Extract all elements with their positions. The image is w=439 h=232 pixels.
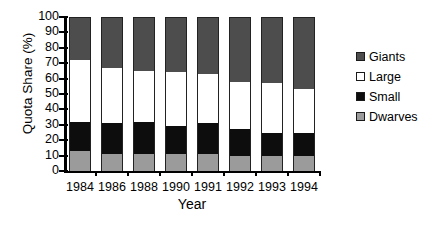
bar-segment-large <box>165 72 187 126</box>
bar-stack <box>261 17 283 171</box>
y-tick-mark <box>59 62 68 64</box>
y-tick-label: 80 <box>25 40 59 54</box>
y-tick-label: 20 <box>25 132 59 146</box>
y-tick-label: 60 <box>25 71 59 85</box>
bar-segment-small <box>293 133 315 156</box>
bar-segment-large <box>101 68 123 123</box>
stacked-bar-chart: Quota Share (%) 0102030405060708090100 1… <box>0 0 439 232</box>
bar-segment-small <box>133 122 155 154</box>
bar-segment-dwarves <box>69 151 91 171</box>
bar-segment-giants <box>197 17 219 74</box>
bar-segment-giants <box>165 17 187 72</box>
bar-segment-giants <box>261 17 283 83</box>
bar-segment-dwarves <box>293 156 315 171</box>
bar-segment-giants <box>101 17 123 68</box>
y-tick-mark <box>59 139 68 141</box>
legend-label: Dwarves <box>369 110 418 124</box>
bar-segment-giants <box>229 17 251 82</box>
bar-segment-large <box>197 74 219 123</box>
bar-segment-large <box>261 83 283 132</box>
bar-segment-dwarves <box>197 154 219 171</box>
bar-stack <box>165 17 187 171</box>
y-tick-mark <box>59 31 68 33</box>
bar-segment-dwarves <box>165 154 187 171</box>
legend-swatch-icon <box>356 112 365 121</box>
y-tick-label: 40 <box>25 101 59 115</box>
y-tick-label: 30 <box>25 117 59 131</box>
bar-segment-small <box>229 129 251 155</box>
y-tick-mark <box>59 155 68 157</box>
bar-stack <box>197 17 219 171</box>
bar-segment-large <box>133 71 155 122</box>
x-tick-mark <box>159 171 161 176</box>
legend-label: Large <box>369 70 401 84</box>
chart-legend: GiantsLargeSmallDwarves <box>356 48 418 128</box>
y-tick-mark <box>59 124 68 126</box>
bar-stack <box>133 17 155 171</box>
legend-item: Small <box>356 88 418 105</box>
bar-segment-small <box>261 133 283 156</box>
legend-label: Small <box>369 90 400 104</box>
x-tick-label: 1994 <box>281 180 327 195</box>
bar-segment-small <box>101 123 123 154</box>
bar-segment-small <box>69 122 91 151</box>
bar-stack <box>293 17 315 171</box>
x-tick-mark <box>255 171 257 176</box>
y-tick-mark <box>59 170 68 172</box>
y-tick-label: 0 <box>25 163 59 177</box>
bar-stack <box>69 17 91 171</box>
bar-stack <box>101 17 123 171</box>
legend-swatch-icon <box>356 92 365 101</box>
x-tick-mark <box>95 171 97 176</box>
bar-segment-dwarves <box>101 154 123 171</box>
legend-item: Giants <box>356 48 418 65</box>
bar-segment-small <box>197 123 219 154</box>
x-tick-mark <box>191 171 193 176</box>
y-tick-label: 10 <box>25 148 59 162</box>
bar-segment-dwarves <box>261 156 283 171</box>
bar-segment-giants <box>69 17 91 60</box>
y-tick-mark <box>59 78 68 80</box>
bar-segment-large <box>293 89 315 132</box>
bar-segment-giants <box>293 17 315 89</box>
x-axis-title: Year <box>64 196 320 212</box>
y-tick-mark <box>59 108 68 110</box>
bar-segment-small <box>165 126 187 154</box>
x-tick-mark <box>127 171 129 176</box>
bar-segment-dwarves <box>229 156 251 171</box>
bar-segment-large <box>229 82 251 130</box>
legend-swatch-icon <box>356 52 365 61</box>
legend-label: Giants <box>369 50 405 64</box>
y-tick-label: 100 <box>25 9 59 23</box>
y-tick-mark <box>59 93 68 95</box>
x-tick-mark <box>287 171 289 176</box>
bar-segment-giants <box>133 17 155 71</box>
bar-segment-dwarves <box>133 154 155 171</box>
y-tick-label: 70 <box>25 55 59 69</box>
y-tick-mark <box>59 47 68 49</box>
plot-area: 0102030405060708090100 <box>64 17 320 171</box>
legend-swatch-icon <box>356 72 365 81</box>
x-tick-mark <box>319 171 321 176</box>
y-tick-label: 90 <box>25 24 59 38</box>
x-tick-mark <box>223 171 225 176</box>
bar-segment-large <box>69 60 91 122</box>
bar-stack <box>229 17 251 171</box>
legend-item: Large <box>356 68 418 85</box>
y-tick-mark <box>59 16 68 18</box>
y-tick-label: 50 <box>25 86 59 100</box>
legend-item: Dwarves <box>356 108 418 125</box>
